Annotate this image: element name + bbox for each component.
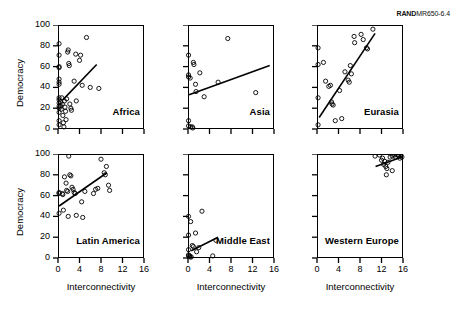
- x-tick-label: 16: [132, 264, 156, 274]
- data-point: [57, 42, 61, 46]
- x-tick-label: 0: [46, 264, 70, 274]
- panel-western-europe: Western Europe: [317, 154, 403, 258]
- trend-line: [189, 66, 270, 95]
- data-point: [104, 164, 108, 168]
- data-point: [57, 119, 61, 123]
- data-point: [361, 37, 365, 41]
- data-point: [74, 52, 78, 56]
- data-point: [195, 250, 199, 254]
- data-point: [359, 32, 363, 36]
- data-point: [316, 46, 320, 50]
- data-point: [63, 105, 67, 109]
- data-point: [62, 125, 66, 129]
- y-tick-label: 100: [24, 148, 50, 158]
- data-point: [390, 169, 394, 173]
- plot-canvas: [48, 25, 148, 139]
- x-tick-label: 0: [305, 264, 329, 274]
- data-point: [316, 96, 320, 100]
- x-tick-label: 8: [219, 264, 243, 274]
- data-point: [186, 248, 190, 252]
- data-point: [88, 85, 92, 89]
- y-tick-label: 40: [24, 210, 50, 220]
- data-point: [193, 231, 197, 235]
- panel-label: Eurasia: [364, 106, 399, 117]
- x-tick-label: 0: [176, 264, 200, 274]
- data-point: [64, 118, 68, 122]
- x-tick-label: 12: [370, 264, 394, 274]
- data-point: [69, 174, 73, 178]
- x-tick-label: 4: [327, 264, 351, 274]
- document-code-brand: RAND: [396, 10, 416, 17]
- data-point: [84, 35, 88, 39]
- plot-canvas: [307, 25, 407, 139]
- data-point: [81, 215, 85, 219]
- x-tick-label: 4: [68, 264, 92, 274]
- data-point: [63, 109, 67, 113]
- plot-canvas: [178, 25, 278, 139]
- panel-label: Africa: [112, 106, 140, 117]
- data-point: [352, 34, 356, 38]
- data-point: [202, 95, 206, 99]
- figure-scatter-matrix: RANDMR650-6.4 Africa020406080100Democrac…: [0, 0, 458, 319]
- data-point: [57, 211, 61, 215]
- data-point: [66, 214, 70, 218]
- trend-line: [63, 65, 97, 100]
- data-point: [226, 36, 230, 40]
- data-point: [340, 117, 344, 121]
- data-point: [186, 53, 190, 57]
- data-point: [348, 63, 352, 67]
- data-point: [193, 82, 197, 86]
- panel-label: Latin America: [76, 235, 140, 246]
- data-point: [371, 27, 375, 31]
- data-point: [191, 244, 195, 248]
- data-point: [99, 157, 103, 161]
- data-point: [337, 88, 341, 92]
- data-point: [365, 47, 369, 51]
- data-point: [324, 79, 328, 83]
- data-point: [321, 60, 325, 64]
- data-point: [57, 53, 61, 57]
- data-point: [74, 213, 78, 217]
- plot-canvas: [307, 154, 407, 268]
- y-axis-label: Democracy: [14, 188, 25, 236]
- data-point: [106, 183, 110, 187]
- data-point: [74, 99, 78, 103]
- data-point: [68, 102, 72, 106]
- panel-latin-america: Latin America: [58, 154, 144, 258]
- data-point: [108, 188, 112, 192]
- x-tick-label: 12: [111, 264, 135, 274]
- data-point: [61, 208, 65, 212]
- data-point: [67, 154, 71, 158]
- document-code-number: MR650-6.4: [416, 10, 450, 17]
- data-point: [57, 123, 61, 127]
- panel-asia: Asia: [188, 25, 274, 129]
- y-tick-label: 60: [24, 61, 50, 71]
- data-point: [384, 173, 388, 177]
- y-tick-label: 60: [24, 190, 50, 200]
- data-point: [83, 189, 87, 193]
- panel-label: Western Europe: [325, 235, 399, 246]
- data-point: [254, 91, 258, 95]
- panel-middle-east: Middle East: [188, 154, 274, 258]
- data-point: [200, 209, 204, 213]
- x-tick-label: 16: [262, 264, 286, 274]
- data-point: [186, 233, 190, 237]
- panel-label: Middle East: [216, 235, 270, 246]
- y-tick-label: 80: [24, 169, 50, 179]
- y-tick-label: 20: [24, 102, 50, 112]
- data-point: [198, 71, 202, 75]
- data-point: [211, 254, 215, 258]
- y-tick-label: 0: [24, 123, 50, 133]
- x-tick-label: 8: [89, 264, 113, 274]
- x-tick-label: 16: [391, 264, 415, 274]
- data-point: [186, 119, 190, 123]
- x-axis-label: Interconnectivity: [305, 281, 415, 292]
- data-point: [66, 189, 70, 193]
- y-tick-label: 80: [24, 40, 50, 50]
- data-point: [62, 175, 66, 179]
- x-tick-label: 12: [241, 264, 265, 274]
- plot-canvas: [178, 154, 278, 268]
- data-point: [91, 191, 95, 195]
- document-code: RANDMR650-6.4: [396, 10, 450, 17]
- x-tick-label: 4: [198, 264, 222, 274]
